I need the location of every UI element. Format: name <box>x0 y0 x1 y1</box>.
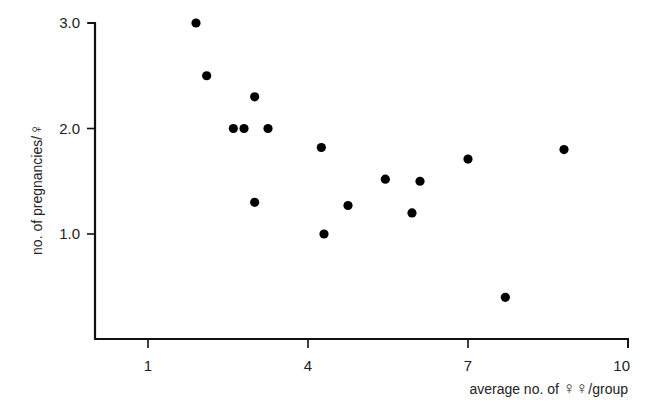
data-point <box>319 229 328 238</box>
x-axis-title-prefix: average no. of <box>469 381 562 397</box>
x-axis-ticks: 14710 <box>144 339 630 374</box>
data-point <box>381 175 390 184</box>
data-points <box>191 18 568 302</box>
data-point <box>250 92 259 101</box>
axes <box>88 22 629 348</box>
female-symbol-icon: ♀ <box>27 123 46 136</box>
x-tick-label: 4 <box>304 357 312 374</box>
data-point <box>202 71 211 80</box>
y-tick-label: 3.0 <box>59 14 80 31</box>
y-axis-ticks: 1.02.03.0 <box>59 14 95 242</box>
female-female-symbol-icon: ♀♀ <box>563 379 589 398</box>
data-point <box>463 154 472 163</box>
data-point <box>191 18 200 27</box>
x-axis-title: average no. of ♀♀/group <box>469 379 628 398</box>
x-tick-label: 10 <box>613 357 630 374</box>
data-point <box>250 198 259 207</box>
x-axis-title-suffix: /group <box>588 381 628 397</box>
data-point <box>343 201 352 210</box>
x-tick-label: 7 <box>464 357 472 374</box>
data-point <box>407 208 416 217</box>
data-point <box>415 177 424 186</box>
data-point <box>229 124 238 133</box>
y-tick-label: 2.0 <box>59 120 80 137</box>
y-tick-label: 1.0 <box>59 225 80 242</box>
data-point <box>317 143 326 152</box>
data-point <box>239 124 248 133</box>
data-point <box>263 124 272 133</box>
data-point <box>559 145 568 154</box>
y-axis-title: no. of pregnancies/♀ <box>27 123 46 255</box>
data-point <box>501 293 510 302</box>
y-axis-title-text: no. of pregnancies/ <box>29 136 45 255</box>
x-tick-label: 1 <box>144 357 152 374</box>
scatter-chart: 1.02.03.0 14710 no. of pregnancies/♀ ave… <box>0 0 653 417</box>
svg-text:no. of pregnancies/♀: no. of pregnancies/♀ <box>27 123 46 255</box>
